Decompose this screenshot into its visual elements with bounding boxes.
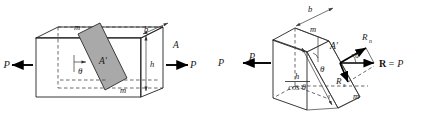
left-load-label-left: P	[3, 59, 11, 70]
right-inclined-height-fraction: h cos θ	[285, 71, 310, 92]
left-inclined-area-label: A′	[98, 56, 108, 66]
left-figure-group: P P m m b h A A′ θ	[3, 22, 197, 97]
left-area-label-A: A	[172, 40, 179, 50]
right-angle-label-theta-force: θ	[355, 50, 359, 60]
engineering-figure: P P m m b h A A′ θ	[0, 0, 424, 128]
right-section-label-bottom: m	[353, 91, 359, 101]
right-resultant-label: R = P	[379, 58, 403, 69]
right-load-label-outside: P	[217, 57, 224, 68]
right-inclined-area-label: A′	[329, 41, 339, 51]
normal-force-symbol: R	[361, 32, 368, 42]
normal-force-subscript: n	[369, 38, 372, 44]
resultant-equals-P: = P	[388, 58, 403, 69]
right-load-label-inside: P	[248, 51, 255, 62]
left-height-label-h: h	[150, 59, 154, 69]
fraction-numerator-h: h	[295, 71, 299, 81]
right-figure-group: P P b m m A′ θ h cos θ R n R s	[217, 4, 403, 110]
right-section-label-top: m	[310, 24, 316, 34]
left-width-label-b: b	[144, 24, 148, 34]
diagram-canvas: P P m m b h A A′ θ	[0, 0, 424, 128]
left-section-label-top: m	[74, 22, 80, 32]
resultant-symbol-R: R	[379, 58, 387, 69]
right-angle-label-theta-body: θ	[320, 64, 325, 74]
right-width-label-b: b	[308, 4, 312, 14]
fraction-denominator-cos-theta: cos θ	[288, 82, 306, 92]
right-normal-force-label: R n	[361, 32, 372, 44]
left-section-label-bottom: m	[120, 85, 126, 95]
left-load-label-right: P	[189, 59, 197, 70]
shear-force-symbol: R	[335, 76, 342, 86]
left-angle-label-theta: θ	[78, 66, 83, 76]
